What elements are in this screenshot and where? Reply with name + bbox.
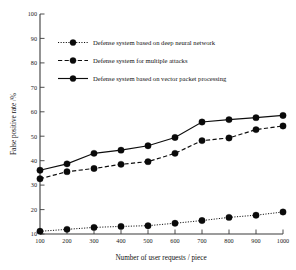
legend-label: Defense system for multiple attacks: [93, 57, 188, 64]
y-tick-label: 50: [31, 133, 37, 140]
data-point: [64, 168, 70, 174]
y-tick-label: 70: [31, 84, 37, 91]
data-point: [37, 167, 43, 173]
x-tick-label: 400: [116, 237, 125, 244]
data-point: [226, 135, 232, 141]
x-tick-label: 200: [62, 237, 71, 244]
data-point: [145, 143, 151, 149]
chart-figure: 10 20 30 40 50 60 70 80 90 100 100 200: [0, 0, 296, 270]
data-point: [37, 176, 43, 182]
data-point: [253, 126, 259, 132]
y-tick-label: 20: [31, 206, 37, 213]
x-tick-label: 800: [224, 237, 233, 244]
data-point: [91, 165, 97, 171]
x-tick-label: 600: [170, 237, 179, 244]
data-point: [199, 137, 205, 143]
data-point: [172, 134, 178, 140]
legend-marker: [70, 39, 76, 45]
data-point: [91, 150, 97, 156]
data-point: [253, 114, 259, 120]
data-point: [64, 161, 70, 167]
x-tick-label: 900: [251, 237, 260, 244]
data-point: [37, 228, 43, 234]
y-tick-label: 60: [31, 108, 37, 115]
y-tick-label: 40: [31, 157, 37, 164]
y-axis-title: False positive rate /%: [10, 93, 18, 155]
data-point: [172, 150, 178, 156]
data-point: [145, 158, 151, 164]
data-point: [118, 161, 124, 167]
data-point: [280, 123, 286, 129]
data-point: [226, 116, 232, 122]
y-tick-label: 80: [31, 59, 37, 66]
data-point: [64, 226, 70, 232]
x-tick-label: 100: [35, 237, 44, 244]
line-chart: 10 20 30 40 50 60 70 80 90 100 100 200: [0, 0, 296, 270]
y-tick-label: 30: [31, 181, 37, 188]
data-point: [199, 217, 205, 223]
data-point: [145, 222, 151, 228]
legend-label: Defense system based on deep neural netw…: [93, 39, 216, 46]
x-axis-title: Number of user requests / piece: [115, 254, 206, 262]
x-tick-label: 500: [143, 237, 152, 244]
x-tick-label: 700: [197, 237, 206, 244]
data-point: [253, 212, 259, 218]
data-point: [199, 119, 205, 125]
data-point: [280, 209, 286, 215]
data-point: [172, 220, 178, 226]
data-point: [91, 224, 97, 230]
data-point: [118, 223, 124, 229]
legend-label: Defense system based on vector packet pr…: [93, 75, 227, 82]
data-point: [280, 112, 286, 118]
y-tick-label: 90: [31, 35, 37, 42]
legend-marker: [70, 57, 76, 63]
legend-marker: [70, 75, 76, 81]
x-tick-label: 300: [89, 237, 98, 244]
data-point: [118, 147, 124, 153]
data-point: [226, 214, 232, 220]
x-tick-label: 1000: [277, 237, 289, 244]
y-tick-label: 100: [28, 10, 37, 17]
